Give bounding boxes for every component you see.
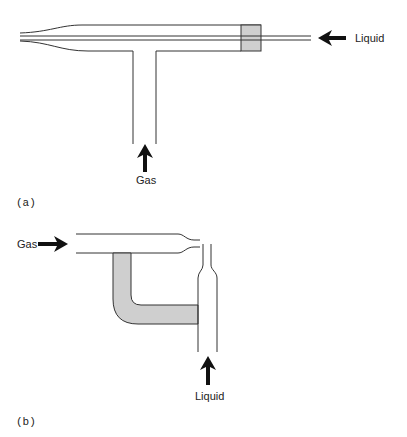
label-gas-a: Gas: [136, 174, 157, 186]
label-liquid-a: Liquid: [355, 32, 384, 44]
support-bracket: [113, 253, 198, 324]
liquid-tube-right: [211, 244, 217, 352]
nebulizer-diagram: Liquid Gas (a) Gas Liquid (b): [0, 0, 407, 437]
outer-tube-bottom: [20, 41, 133, 51]
outer-tube-top: [20, 25, 261, 33]
gas-tube-top: [76, 234, 200, 240]
liquid-arrow-icon: [200, 356, 216, 385]
seal-plug: [241, 25, 261, 51]
panel-a: Liquid Gas (a): [16, 25, 384, 209]
gas-arrow-icon: [38, 236, 68, 252]
caption-b: (b): [16, 416, 36, 428]
liquid-tube-left: [198, 244, 203, 352]
panel-b: Gas Liquid (b): [16, 234, 224, 428]
caption-a: (a): [16, 197, 36, 209]
label-gas-b: Gas: [17, 238, 38, 250]
label-liquid-b: Liquid: [195, 390, 224, 402]
gas-arrow-icon: [137, 144, 153, 172]
gas-tube-bottom: [76, 247, 200, 253]
liquid-arrow-icon: [318, 30, 346, 46]
